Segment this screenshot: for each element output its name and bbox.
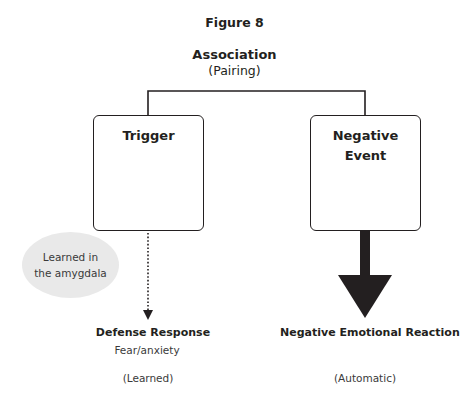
amygdala-note: Learned in the amygdala — [22, 232, 119, 298]
negative-reaction-type: (Automatic) — [305, 372, 425, 384]
amygdala-note-line1: Learned in — [34, 249, 107, 265]
defense-response-title: Defense Response — [88, 326, 218, 339]
negative-event-label: Negative Event — [311, 126, 420, 166]
negative-event-label-line2: Event — [311, 146, 420, 166]
negative-event-label-line1: Negative — [311, 126, 420, 146]
learned-arrowhead-icon — [143, 310, 153, 320]
trigger-node: Trigger — [93, 115, 204, 231]
automatic-arrowhead-icon — [338, 275, 392, 318]
amygdala-note-line2: the amygdala — [34, 265, 107, 281]
negative-reaction-title: Negative Emotional Reaction — [280, 326, 450, 339]
association-bracket — [148, 91, 365, 115]
trigger-label: Trigger — [94, 126, 203, 146]
negative-event-node: Negative Event — [310, 115, 421, 231]
defense-response-type: (Learned) — [88, 372, 208, 384]
defense-response-detail: Fear/anxiety — [88, 344, 206, 356]
automatic-arrow-shaft — [360, 230, 370, 277]
